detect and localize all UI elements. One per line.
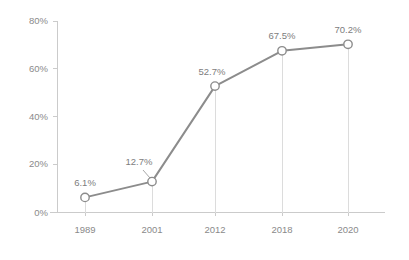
x-tick-label-2012: 2012 xyxy=(204,224,225,235)
y-tick-label-60: 60% xyxy=(29,63,49,74)
x-axis-tick-labels: 1989 2001 2012 2018 2020 xyxy=(74,224,358,235)
x-axis-ticks xyxy=(85,213,348,217)
data-point-1989[interactable] xyxy=(81,193,89,201)
data-label-2018: 67.5% xyxy=(269,30,296,41)
x-tick-label-2020: 2020 xyxy=(337,224,358,235)
y-tick-label-80: 80% xyxy=(29,15,49,26)
data-label-1989: 6.1% xyxy=(74,177,96,188)
data-point-labels: 6.1% 12.7% 52.7% 67.5% 70.2% xyxy=(74,24,362,188)
leader-line-2001 xyxy=(143,170,150,178)
data-point-2018[interactable] xyxy=(278,47,286,55)
y-axis-tick-labels: 80% 60% 40% 20% 0% xyxy=(29,15,49,218)
x-tick-label-2018: 2018 xyxy=(271,224,292,235)
data-label-2001: 12.7% xyxy=(126,156,153,167)
line-chart-figure: 80% 60% 40% 20% 0% 1989 2001 2012 2018 2… xyxy=(0,0,409,260)
y-tick-label-40: 40% xyxy=(29,111,49,122)
chart-canvas: 80% 60% 40% 20% 0% 1989 2001 2012 2018 2… xyxy=(0,0,409,260)
data-point-2020[interactable] xyxy=(344,40,352,48)
data-markers xyxy=(81,40,352,202)
y-tick-label-20: 20% xyxy=(29,158,49,169)
data-point-2012[interactable] xyxy=(211,82,219,90)
y-tick-label-0: 0% xyxy=(34,207,48,218)
data-label-2020: 70.2% xyxy=(335,24,362,35)
data-label-2012: 52.7% xyxy=(199,66,226,77)
data-point-2001[interactable] xyxy=(148,177,156,185)
x-tick-label-1989: 1989 xyxy=(74,224,95,235)
y-axis-ticks xyxy=(53,21,58,213)
x-tick-label-2001: 2001 xyxy=(141,224,162,235)
